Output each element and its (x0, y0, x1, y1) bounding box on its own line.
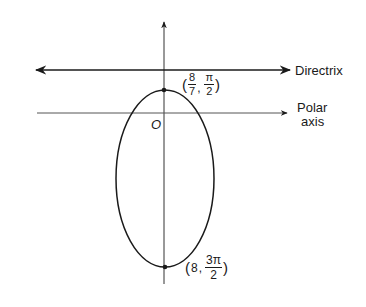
separator: , (197, 82, 200, 94)
ellipse-curve (116, 90, 214, 267)
theta-fraction: 3π 2 (205, 254, 222, 281)
diagram-canvas (0, 0, 366, 307)
polar-axis-label: Polar axis (297, 101, 327, 128)
theta-fraction: π 2 (204, 72, 214, 97)
polar-axis-label-line2: axis (297, 115, 327, 128)
r-value: 8 (191, 262, 198, 274)
directrix-label: Directrix (295, 64, 343, 77)
separator: , (199, 262, 202, 274)
close-paren: ) (223, 260, 228, 275)
open-paren: ( (182, 77, 187, 92)
theta-numerator: π (204, 72, 214, 85)
open-paren: ( (185, 260, 190, 275)
theta-denominator: 2 (206, 85, 212, 97)
r-denominator: 7 (189, 85, 195, 97)
bottom-vertex-point (163, 265, 168, 270)
polar-axis-label-line1: Polar (297, 101, 327, 114)
close-paren: ) (215, 77, 220, 92)
top-vertex-label: ( 8 7 , π 2 ) (182, 72, 220, 97)
bottom-vertex-label: ( 8 , 3π 2 ) (185, 254, 228, 281)
origin-label: O (151, 118, 161, 131)
top-vertex-point (162, 88, 167, 93)
theta-denominator: 2 (210, 268, 217, 281)
theta-numerator: 3π (205, 254, 222, 268)
r-fraction: 8 7 (188, 72, 196, 97)
r-numerator: 8 (188, 72, 196, 85)
